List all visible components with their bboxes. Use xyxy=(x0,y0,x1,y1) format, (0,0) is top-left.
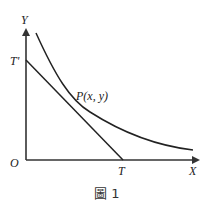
diagram-figure: Y T' P(x, y) O T X 圖 1 xyxy=(0,0,209,210)
figure-caption: 圖 1 xyxy=(94,186,119,201)
x-axis-label: X xyxy=(188,164,197,178)
y-axis-label: Y xyxy=(21,13,29,27)
curve xyxy=(36,33,193,150)
origin-label: O xyxy=(10,156,19,170)
point-p-label: P(x, y) xyxy=(75,89,108,103)
tangent-line xyxy=(26,60,123,160)
t-prime-label: T' xyxy=(10,54,20,68)
t-point-label: T xyxy=(118,164,126,178)
